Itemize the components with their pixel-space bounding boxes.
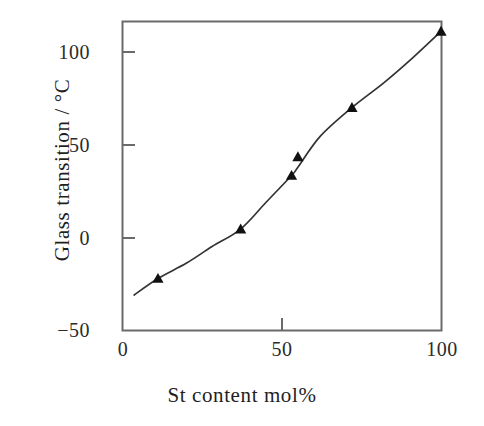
ytick-label-50: 50: [28, 134, 90, 157]
ytick-label-minus50: −50: [20, 319, 90, 342]
xtick-label-0: 0: [103, 338, 143, 361]
xtick-label-100: 100: [419, 338, 465, 361]
chart-figure: 100 50 0 −50 0 50 100 St content mol% Gl…: [0, 0, 484, 426]
plot-frame: [123, 22, 442, 331]
xtick-label-50: 50: [262, 338, 302, 361]
ytick-label-100: 100: [28, 41, 90, 64]
x-axis-title: St content mol%: [0, 383, 484, 408]
ytick-label-0: 0: [28, 227, 90, 250]
